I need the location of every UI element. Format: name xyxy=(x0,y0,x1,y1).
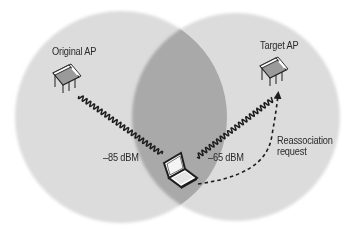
diagram-canvas xyxy=(0,0,356,233)
roaming-diagram: Original AP Target AP –85 dBM –65 dBM Re… xyxy=(0,0,356,233)
target-signal-strength-label: –65 dBM xyxy=(208,152,244,163)
target-ap-label: Target AP xyxy=(260,40,298,51)
reassociation-request-label: Reassociation request xyxy=(277,135,333,157)
original-ap-label: Original AP xyxy=(52,46,96,57)
original-signal-strength-label: –85 dBM xyxy=(103,152,139,163)
